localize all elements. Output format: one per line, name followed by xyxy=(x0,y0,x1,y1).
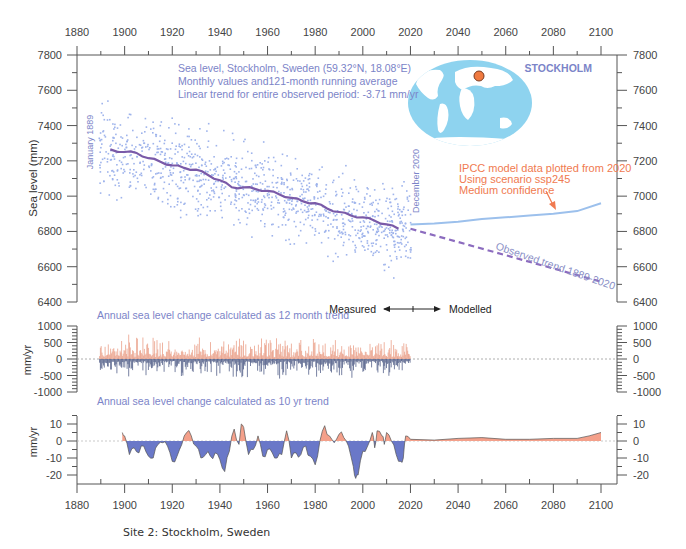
y-tick-label: 7200 xyxy=(633,155,657,167)
x-tick-label: 1980 xyxy=(303,499,327,511)
y-tick-label: 7600 xyxy=(38,84,62,96)
y-tick-label: 6800 xyxy=(38,225,62,237)
y-tick-label: 6600 xyxy=(633,261,657,273)
trend-label: Observed trend 1889-2020 xyxy=(494,240,617,292)
y-tick-label: -20 xyxy=(633,469,649,481)
panel3-y-label: mm/yr xyxy=(27,426,39,457)
y-tick-label: 1000 xyxy=(633,320,657,332)
y-tick-label: 10 xyxy=(633,418,645,430)
start-date-label: January 1889 xyxy=(85,115,95,170)
y-tick-label: 7600 xyxy=(633,84,657,96)
x-tick-label: 1940 xyxy=(208,499,232,511)
x-tick-label: 2080 xyxy=(541,26,565,38)
chart-subtitle-1: Monthly values and121-month running aver… xyxy=(178,75,398,87)
x-tick-label: 1980 xyxy=(303,26,327,38)
panel2-y-axis-right: 10005000-500-1000 xyxy=(617,320,661,398)
main-y-axis-left: 64006600680070007200740076007800 xyxy=(38,49,77,308)
y-tick-label: 0 xyxy=(56,435,62,447)
y-tick-label: 1000 xyxy=(38,320,62,332)
x-tick-label: 2020 xyxy=(398,499,422,511)
x-tick-label: 2000 xyxy=(351,499,375,511)
x-tick-label: 2000 xyxy=(351,26,375,38)
main-y-axis-right: 64006600680070007200740076007800 xyxy=(617,49,657,308)
y-tick-label: 500 xyxy=(44,337,62,349)
y-tick-label: -500 xyxy=(633,370,655,382)
x-tick-label: 2040 xyxy=(446,26,470,38)
y-tick-label: 6400 xyxy=(38,296,62,308)
y-tick-label: 6600 xyxy=(38,261,62,273)
y-tick-label: -1000 xyxy=(633,386,661,398)
y-tick-label: 7800 xyxy=(38,49,62,61)
y-tick-label: -10 xyxy=(633,452,649,464)
x-tick-label: 1920 xyxy=(160,26,184,38)
bottom-x-axis: 1880190019201940196019802000202020402060… xyxy=(65,479,617,511)
x-tick-label: 1940 xyxy=(208,26,232,38)
chart-subtitle-2: Linear trend for entire observed period:… xyxy=(178,88,419,100)
main-y-axis-label: Sea level (mm) xyxy=(27,139,39,216)
y-tick-label: 6400 xyxy=(633,296,657,308)
y-tick-label: 7000 xyxy=(38,190,62,202)
y-tick-label: -1000 xyxy=(34,386,62,398)
x-tick-label: 2060 xyxy=(493,26,517,38)
y-tick-label: 7000 xyxy=(633,190,657,202)
panel3-negative-area xyxy=(122,424,601,478)
x-tick-label: 1960 xyxy=(255,26,279,38)
x-tick-label: 2020 xyxy=(398,26,422,38)
figure-caption: Site 2: Stockholm, Sweden xyxy=(123,526,270,539)
y-tick-label: 0 xyxy=(633,435,639,447)
y-tick-label: -20 xyxy=(46,469,62,481)
location-marker-icon xyxy=(474,71,484,81)
x-tick-label: 2100 xyxy=(589,26,613,38)
panel3-y-axis-left: 100-10-20 xyxy=(46,416,77,485)
x-tick-label: 1960 xyxy=(255,499,279,511)
x-tick-label: 1900 xyxy=(112,499,136,511)
x-tick-label: 2040 xyxy=(446,499,470,511)
y-tick-label: 6800 xyxy=(633,225,657,237)
x-tick-label: 2060 xyxy=(493,499,517,511)
y-tick-label: 7400 xyxy=(38,120,62,132)
measured-modelled-arrow-icon xyxy=(383,306,441,312)
ipcc-note-3: Medium confidence xyxy=(459,184,554,196)
x-tick-label: 2080 xyxy=(541,499,565,511)
y-tick-label: 500 xyxy=(633,337,651,349)
panel3-title: Annual sea level change calculated as 10… xyxy=(97,395,329,407)
y-tick-label: 10 xyxy=(50,418,62,430)
y-tick-label: -10 xyxy=(46,452,62,464)
panel2-bars xyxy=(100,335,411,379)
chart-title: Sea level, Stockholm, Sweden (59.32°N, 1… xyxy=(178,62,411,74)
ipcc-model-line xyxy=(411,203,602,224)
top-x-axis: 1880190019201940196019802000202020402060… xyxy=(65,26,617,55)
panel2-y-label: mm/yr xyxy=(21,344,33,375)
x-tick-label: 2100 xyxy=(589,499,613,511)
modelled-label: Modelled xyxy=(449,303,492,315)
y-tick-label: -500 xyxy=(40,370,62,382)
panel2-title: Annual sea level change calculated as 12… xyxy=(97,309,349,321)
y-tick-label: 7800 xyxy=(633,49,657,61)
y-tick-label: 0 xyxy=(56,353,62,365)
sea-level-chart: 1880190019201940196019802000202020402060… xyxy=(0,0,686,549)
end-date-label: December 2020 xyxy=(411,149,421,213)
y-tick-label: 0 xyxy=(633,353,639,365)
world-map-icon xyxy=(408,60,532,150)
y-tick-label: 7200 xyxy=(38,155,62,167)
x-tick-label: 1880 xyxy=(65,499,89,511)
station-label: STOCKHOLM xyxy=(525,62,593,74)
panel2-y-axis-left: 10005000-500-1000 xyxy=(34,320,77,398)
y-tick-label: 7400 xyxy=(633,120,657,132)
x-tick-label: 1880 xyxy=(65,26,89,38)
panel3-y-axis-right: 100-10-20 xyxy=(617,416,649,485)
x-tick-label: 1900 xyxy=(112,26,136,38)
x-tick-label: 1920 xyxy=(160,499,184,511)
